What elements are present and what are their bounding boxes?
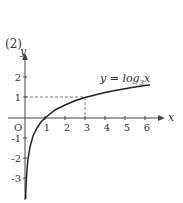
x-axis-arrow-icon xyxy=(158,115,165,121)
x-tick: 5 xyxy=(124,122,130,133)
y-tick: -3 xyxy=(11,173,21,184)
y-axis-label: y xyxy=(19,45,27,58)
x-tick: 6 xyxy=(144,122,150,133)
x-tick: 1 xyxy=(44,122,50,133)
y-tick: -2 xyxy=(11,153,21,164)
curve-label: y = log3x xyxy=(99,72,151,87)
x-axis-label: x xyxy=(168,111,175,124)
y-tick: -1 xyxy=(11,133,21,144)
x-tick: 3 xyxy=(84,122,90,133)
log-chart: (2) y x 1 2 3 4 5 6 2 1 -1 -2 -3 O y = l… xyxy=(0,0,183,203)
origin-label: O xyxy=(14,122,22,133)
y-tick: 2 xyxy=(15,72,21,83)
y-tick: 1 xyxy=(15,92,21,103)
log-curve xyxy=(26,85,150,199)
x-tick: 4 xyxy=(104,122,110,133)
x-tick: 2 xyxy=(64,122,70,133)
